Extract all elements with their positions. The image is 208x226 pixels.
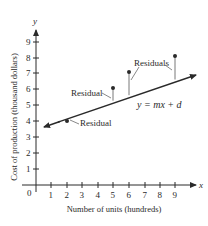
x-tick-label: 9 [173, 190, 178, 200]
x-tick-label: 5 [111, 190, 116, 200]
y-axis-var-label: y [32, 16, 37, 26]
data-point [65, 119, 69, 123]
data-point [127, 70, 131, 74]
y-tick-label: 2 [26, 148, 31, 158]
x-tick-label: 8 [158, 190, 163, 200]
y-tick-label: 3 [26, 132, 31, 142]
residual-label-mid: Residual [71, 88, 103, 98]
x-tick-label: 4 [96, 190, 101, 200]
y-tick-label: 5 [26, 100, 31, 110]
y-tick-label: 6 [26, 84, 31, 94]
residual-label-low: Residual [80, 118, 112, 128]
y-tick-label: 7 [26, 68, 31, 78]
x-axis-var-label: x [198, 180, 203, 190]
x-tick-label: 2 [65, 190, 70, 200]
x-tick-label: 7 [143, 190, 148, 200]
data-point [111, 86, 115, 90]
data-point [173, 54, 177, 58]
x-tick-label: 1 [49, 190, 54, 200]
y-tick-label: 1 [26, 164, 31, 174]
origin-label: 0 [27, 188, 32, 198]
x-tick-label: 3 [80, 190, 85, 200]
x-axis-title: Number of units (hundreds) [67, 204, 162, 214]
y-tick-label: 9 [26, 37, 31, 47]
y-tick-label: 4 [26, 116, 31, 126]
y-ticks: 1 2 3 4 5 6 7 8 9 [26, 37, 39, 174]
regression-residuals-chart: y x 0 1 2 3 4 5 6 7 8 9 1 2 3 [0, 0, 208, 226]
y-tick-label: 8 [26, 53, 31, 63]
x-tick-label: 6 [127, 190, 132, 200]
residuals-label-high: Residuals [134, 58, 169, 68]
y-axis-title: Cost of production (thousand dollars) [9, 53, 19, 181]
regression-equation: y = mx + d [136, 99, 183, 110]
